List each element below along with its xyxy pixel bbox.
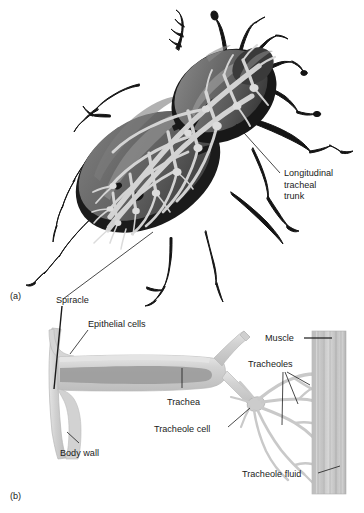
- panel-b-label: (b): [10, 491, 21, 501]
- label-body-wall: Body wall: [60, 448, 99, 458]
- beetle-leg-mid-right-tibia: [310, 146, 330, 153]
- tracheole-branch-6: [241, 407, 250, 427]
- tracheole-branch-2b: [299, 389, 311, 399]
- beetle-leg-front-right-tibia: [297, 111, 315, 115]
- label-epithelial-cells: Epithelial cells: [88, 319, 146, 329]
- tracheole-branch-3b: [295, 422, 312, 423]
- tracheal-node: [152, 189, 160, 196]
- panel-a-beetle-illustration: Longitudinal tracheal trunk (a): [10, 10, 353, 306]
- tracheole-branch-1b: [294, 378, 312, 389]
- tracheal-node: [107, 206, 114, 212]
- tracheole-fluid: [312, 331, 316, 494]
- label-longitudinal-tracheal-trunk: Longitudinal tracheal trunk: [284, 168, 336, 201]
- tracheal-node: [115, 220, 122, 226]
- beetle-leg-mid-left-tarsus: [56, 206, 63, 228]
- beetle-leg-hind-right: [231, 192, 283, 244]
- beetle-antenna-4b: [291, 61, 303, 71]
- beetle-leg-front-left-tarsus: [74, 120, 84, 132]
- beetle-leg-hind-centre-right-tibia: [216, 283, 223, 302]
- beetle-leg-front-right-tarsus: [313, 111, 320, 116]
- label-spiracle: Spiracle: [56, 295, 89, 305]
- leader-spiracle-from-beetle: [63, 232, 153, 299]
- beetle-antenna-3b: [276, 35, 288, 39]
- beetle-leg-hind-right-femur: [252, 148, 268, 200]
- beetle-leg-hind-left-claw: [26, 282, 35, 286]
- figure-insect-tracheal-system: Longitudinal tracheal trunk (a): [0, 0, 364, 513]
- beetle-leg-hind-left-femur: [90, 114, 110, 117]
- tracheole-tuft-8: [94, 230, 108, 243]
- beetle-leg-hind-left-tarsus: [34, 272, 45, 283]
- tracheal-node: [132, 208, 140, 214]
- tracheal-node: [212, 122, 222, 130]
- tracheal-node: [172, 168, 181, 176]
- beetle-leg-hind-left-spur: [83, 106, 92, 116]
- beetle-leg-front-left: [96, 84, 139, 109]
- beetle-leg-hind-left-tibia: [44, 255, 60, 274]
- beetle-leg-mid-right-tarsus: [330, 145, 341, 152]
- panel-a-label: (a): [10, 291, 21, 301]
- tracheal-node: [193, 144, 202, 152]
- label-longitudinal-tracheal-trunk-line-2: tracheal: [284, 180, 316, 190]
- beetle-leg-mid-right-claw: [341, 151, 353, 154]
- leader-epithelial-cells: [70, 330, 88, 354]
- figure-canvas: Longitudinal tracheal trunk (a): [0, 0, 364, 513]
- beetle-leg-hind-centre: [164, 238, 172, 287]
- beetle-leg-mid-right: [252, 119, 311, 152]
- label-tracheole-cell: Tracheole cell: [154, 424, 210, 434]
- leader-tracheole-cell: [228, 408, 250, 427]
- beetle-antenna-2b: [256, 17, 265, 23]
- label-trachea: Trachea: [167, 397, 201, 407]
- tracheal-node: [249, 84, 258, 92]
- label-tracheoles: Tracheoles: [248, 359, 293, 369]
- beetle-leg-hind-centre-right: [205, 231, 216, 285]
- label-longitudinal-tracheal-trunk-line-3: trunk: [284, 191, 305, 201]
- beetle-leg-hind-right-tarsus: [287, 225, 299, 232]
- beetle-leg-hind-centre-tibia: [154, 286, 165, 301]
- tracheal-node: [109, 183, 116, 189]
- tracheole-branch-2: [262, 399, 315, 402]
- tracheal-node: [233, 102, 242, 110]
- label-muscle: Muscle: [265, 333, 294, 343]
- beetle-antenna-1-club: [210, 10, 219, 21]
- beetle-leg-mid-left-claw: [53, 226, 57, 242]
- beetle-antenna-4-tip: [301, 71, 307, 76]
- tracheole-branch-4b: [295, 463, 312, 465]
- tracheal-node: [184, 130, 192, 137]
- label-longitudinal-tracheal-trunk-line-1: Longitudinal: [284, 168, 333, 178]
- label-tracheole-fluid: Tracheole fluid: [242, 469, 301, 479]
- tracheal-node: [202, 105, 210, 112]
- trachea-lumen: [60, 366, 212, 384]
- panel-b-detail-illustration: Spiracle Epithelial cells Body wall Trac…: [10, 295, 346, 501]
- beetle-leg-hind-centre-claw: [145, 300, 156, 306]
- beetle-leg-mid-left-tibia: [62, 180, 75, 208]
- beetle-leg-hind-centre-right-tarsus: [147, 287, 162, 291]
